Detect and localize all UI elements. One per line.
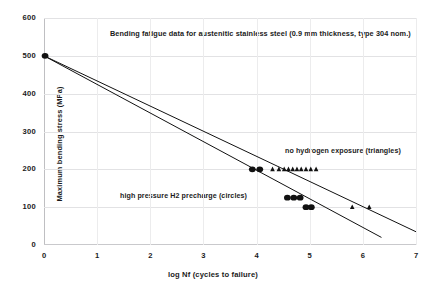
x-tick-label: 7 [406,251,426,260]
x-tick-label: 5 [300,251,320,260]
data-point-triangle [295,167,300,172]
y-tick-label: 100 [6,202,36,211]
x-tick-label: 0 [34,251,54,260]
data-point-triangle [270,167,275,172]
grid-line-vertical [416,18,417,245]
data-point-triangle [299,167,304,172]
x-tick-label: 6 [353,251,373,260]
data-point-circle [249,166,256,172]
data-point-triangle [314,167,319,172]
data-point-circle [290,195,297,201]
x-tick-label: 3 [193,251,213,260]
x-tick-label: 2 [140,251,160,260]
plot-area: 010020030040050060001234567 [44,18,416,245]
y-tick-label: 200 [6,164,36,173]
data-point-triangle [290,167,295,172]
y-tick-label: 400 [6,89,36,98]
x-tick-label: 1 [87,251,107,260]
data-point-triangle [350,204,355,209]
data-point-triangle [304,167,309,172]
y-tick-label: 500 [6,51,36,60]
data-point-circle [256,166,263,172]
data-point-triangle [367,204,372,209]
data-layer [44,18,416,245]
trend-line [44,56,416,232]
y-tick-label: 600 [6,13,36,22]
data-point-circle [284,195,291,201]
data-point-triangle [286,167,291,172]
x-axis-title: log Nf (cycles to failure) [0,270,426,279]
data-point-triangle [308,167,313,172]
data-point-circle [42,53,49,59]
x-tick-label: 4 [247,251,267,260]
trend-line [44,56,381,238]
y-tick-label: 300 [6,127,36,136]
fatigue-chart-figure: Bending fatigue data for austenitic stai… [0,0,426,287]
y-tick-label: 0 [6,240,36,249]
data-point-circle [297,195,304,201]
data-point-circle [308,204,315,210]
